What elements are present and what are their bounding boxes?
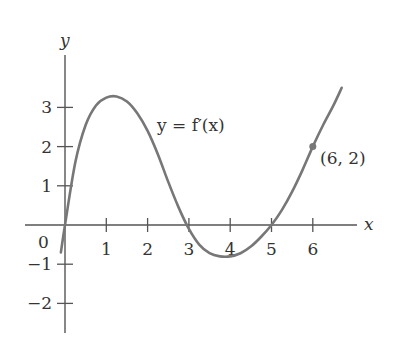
y-tick-label: 3 bbox=[41, 97, 52, 117]
y-tick-label: −1 bbox=[27, 254, 52, 274]
x-tick-label: 3 bbox=[183, 239, 194, 259]
x-tick-label: 6 bbox=[307, 239, 318, 259]
y-tick-label: 1 bbox=[41, 176, 52, 196]
y-tick-label: −2 bbox=[27, 293, 52, 313]
origin-label: 0 bbox=[38, 232, 49, 252]
y-tick-label: 2 bbox=[41, 137, 52, 157]
derivative-curve bbox=[61, 88, 342, 257]
x-tick-label: 1 bbox=[101, 239, 112, 259]
chart: 123456−2−1123 y x 0 y = f′(x) (6, 2) bbox=[0, 0, 396, 343]
highlight-point bbox=[309, 143, 316, 150]
x-tick-label: 2 bbox=[142, 239, 153, 259]
axes bbox=[25, 55, 357, 333]
curve-label: y = f′(x) bbox=[156, 115, 225, 135]
y-axis-label: y bbox=[59, 30, 70, 50]
x-axis-label: x bbox=[364, 214, 374, 234]
x-tick-label: 5 bbox=[266, 239, 277, 259]
point-label: (6, 2) bbox=[320, 148, 366, 168]
